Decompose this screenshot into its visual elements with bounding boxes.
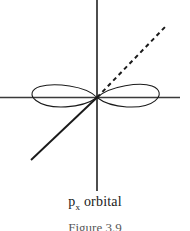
orbital-caption: pxorbital <box>0 194 190 212</box>
caption-subscript: x <box>75 202 80 212</box>
figure-number: Figure 3.9 <box>0 223 190 231</box>
figure-number-clip: Figure 3.9 <box>0 223 190 231</box>
figure-page: pxorbital Figure 3.9 <box>0 0 190 231</box>
caption-word: orbital <box>84 194 122 209</box>
